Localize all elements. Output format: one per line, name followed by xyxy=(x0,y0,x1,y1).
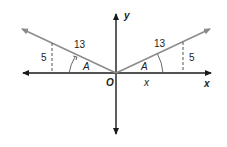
right-hypotenuse-label: 13 xyxy=(154,38,166,49)
y-axis-label: y xyxy=(123,10,130,21)
right-angle-arc-icon xyxy=(158,54,164,73)
x-axis-label: x xyxy=(203,78,210,89)
left-hypotenuse-label: 13 xyxy=(74,39,86,50)
left-opposite-label: 5 xyxy=(41,52,47,63)
origin-label: O xyxy=(106,77,114,88)
right-opposite-label: 5 xyxy=(189,52,195,63)
right-terminal-ray xyxy=(116,29,210,73)
trig-diagram: y x O 13 5 A 13 5 A x xyxy=(0,0,227,147)
left-angle-label: A xyxy=(82,61,90,72)
right-angle-label: A xyxy=(140,61,148,72)
left-angle-arc-icon xyxy=(69,57,75,73)
left-terminal-ray xyxy=(22,29,116,73)
right-adjacent-label: x xyxy=(143,77,150,88)
